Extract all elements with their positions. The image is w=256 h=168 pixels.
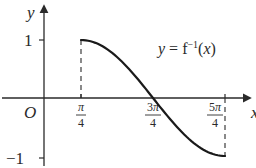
x-tick-label-pi-4: π 4 — [76, 100, 86, 130]
svg-text:3π: 3π — [147, 100, 160, 114]
function-label: y = f−1(x) — [156, 39, 216, 58]
origin-label: O — [24, 103, 36, 122]
svg-text:4: 4 — [150, 116, 156, 130]
x-tick-label-5pi-4: 5π 4 — [207, 100, 223, 130]
svg-text:4: 4 — [78, 116, 84, 130]
x-axis-label: x — [250, 103, 256, 122]
svg-text:4: 4 — [212, 116, 218, 130]
y-tick-label-1: 1 — [24, 31, 33, 50]
function-graph: y x O 1 −1 π 4 3π 4 5π 4 y = f−1(x) — [0, 0, 256, 168]
svg-text:5π: 5π — [209, 100, 222, 114]
svg-text:π: π — [78, 100, 85, 114]
y-tick-label-neg1: −1 — [6, 149, 24, 168]
y-axis-label: y — [25, 3, 35, 22]
